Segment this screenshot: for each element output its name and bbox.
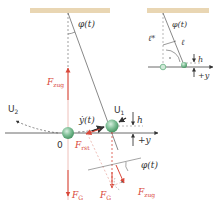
u1-subscript: 1: [121, 109, 125, 116]
gravity2-subscript: G: [106, 194, 111, 201]
inset-length-star-label: ℓ*: [148, 34, 155, 43]
axis-label: +y: [138, 136, 151, 145]
inset-bob-displaced: [181, 62, 187, 68]
angle-arc: [68, 32, 75, 34]
bob-displaced: [106, 120, 119, 133]
inset-angle-label: φ(t): [172, 20, 187, 29]
tension-component-line: [112, 182, 122, 186]
ceiling: [30, 8, 110, 13]
restoring-component-line: [88, 135, 112, 186]
u1-symbol: U: [114, 105, 121, 115]
u2-symbol: U: [8, 104, 15, 114]
u2-subscript: 2: [15, 108, 19, 115]
tension-label: Fzug: [47, 78, 64, 89]
restoring-force-label: Frst: [75, 141, 90, 152]
pendulum-diagram: φ(t) Fzug U2 U1 0 ẏ(t) Frst FG FG Fzug φ…: [0, 0, 219, 206]
gravity-subscript: G: [78, 194, 83, 201]
inset-lstar-tick: [163, 41, 176, 45]
velocity-arrow: [92, 127, 104, 131]
tension-displaced-label: Fzug: [138, 188, 155, 199]
inset-ceiling: [147, 8, 209, 13]
angle-arc-2: [126, 162, 128, 171]
angle-label: φ(t): [78, 20, 95, 29]
pendulum-svg: [0, 0, 219, 206]
velocity-label: ẏ(t): [79, 116, 95, 125]
bob-rest: [62, 127, 74, 139]
inset-right-angle: [166, 50, 180, 62]
angle-label-2: φ(t): [141, 161, 158, 170]
swing-path-left: [16, 121, 58, 133]
origin-label: 0: [57, 141, 63, 150]
tension2-subscript: zug: [144, 191, 155, 198]
inset-height-label: h: [198, 55, 203, 64]
angle-ray: [88, 158, 141, 170]
u2-label: U2: [8, 105, 18, 116]
u1-label: U1: [114, 106, 124, 117]
u1-pointer: [119, 118, 126, 122]
height-label: h: [137, 116, 143, 125]
inset-length-label: ℓ: [181, 38, 184, 47]
tension-arrow-displaced: [116, 165, 124, 183]
inset-axis-label: +y: [198, 71, 209, 80]
right-angle-dot: [121, 181, 123, 183]
restoring-subscript: rst: [81, 144, 89, 151]
inset-bob-rest: [160, 64, 166, 70]
gravity-label: FG: [72, 191, 83, 202]
tension-subscript: zug: [53, 81, 64, 88]
gravity-displaced-label: FG: [100, 191, 111, 202]
inset-right-dot: [169, 57, 170, 58]
